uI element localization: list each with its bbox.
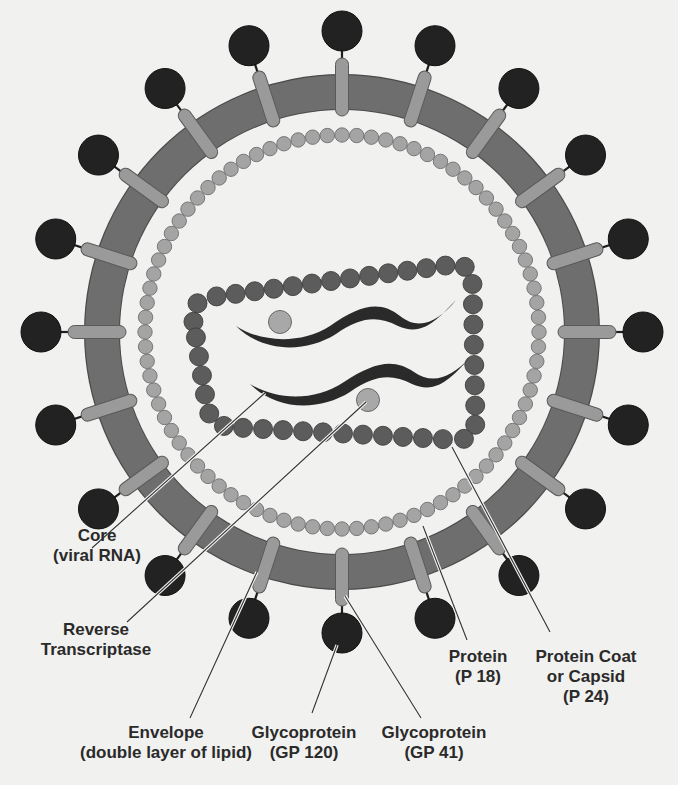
- p18-bead: [291, 517, 305, 531]
- label-core: Core (viral RNA): [52, 526, 142, 566]
- leader-line-stroke: [312, 645, 337, 713]
- p18-bead: [531, 340, 545, 354]
- p24-bead: [274, 421, 293, 440]
- p24-bead: [393, 427, 412, 446]
- p18-bead: [143, 281, 157, 295]
- p18-bead: [350, 128, 364, 142]
- leader-line-stroke: [190, 572, 257, 718]
- p18-bead: [505, 423, 519, 437]
- p18-bead: [527, 369, 541, 383]
- p24-bead: [466, 396, 485, 415]
- p24-bead: [436, 256, 455, 275]
- p18-bead: [138, 325, 152, 339]
- p18-bead: [420, 502, 434, 516]
- p24-bead: [322, 272, 341, 291]
- p24-bead: [417, 259, 436, 278]
- p18-bead: [446, 488, 460, 502]
- p18-bead: [140, 354, 154, 368]
- p24-bead: [398, 261, 417, 280]
- p18-bead: [393, 513, 407, 527]
- p18-bead: [433, 495, 447, 509]
- label-envelope: Envelope (double layer of lipid): [66, 723, 266, 763]
- gp120-head: [36, 219, 76, 259]
- gp120-head: [36, 405, 76, 445]
- p18-bead: [407, 141, 421, 155]
- p24-bead: [234, 418, 253, 437]
- gp120-head: [566, 135, 606, 175]
- p18-bead: [151, 397, 165, 411]
- label-glycoprotein-gp120: Glycoprotein (GP 120): [248, 723, 360, 763]
- p24-bead: [189, 347, 208, 366]
- p18-bead: [320, 128, 334, 142]
- p18-bead: [335, 128, 349, 142]
- lipid-envelope: [84, 74, 600, 590]
- gp120-head: [415, 26, 455, 66]
- p18-bead: [335, 522, 349, 536]
- p18-bead: [224, 488, 238, 502]
- p24-bead: [463, 274, 482, 293]
- p18-bead: [446, 162, 460, 176]
- leader-line-gp41: [345, 596, 421, 718]
- p18-bead: [143, 369, 157, 383]
- p24-bead: [245, 282, 264, 301]
- p24-bead: [192, 366, 211, 385]
- p18-bead: [489, 202, 503, 216]
- p24-bead: [360, 266, 379, 285]
- p24-bead: [413, 429, 432, 448]
- p18-bead: [407, 508, 421, 522]
- leader-line-stroke: [345, 596, 421, 718]
- p18-bead: [277, 137, 291, 151]
- p24-bead: [455, 257, 474, 276]
- p18-bead: [151, 253, 165, 267]
- p18-bead: [236, 154, 250, 168]
- virus-interior: [120, 110, 564, 554]
- p18-bead: [140, 295, 154, 309]
- p18-bead: [263, 141, 277, 155]
- gp120-head: [78, 489, 118, 529]
- p18-bead: [350, 521, 364, 535]
- p24-bead: [433, 430, 452, 449]
- p18-bead: [147, 267, 161, 281]
- gp120-head: [229, 26, 269, 66]
- p18-bead: [420, 147, 434, 161]
- p24-bead: [200, 404, 219, 423]
- p24-bead: [334, 424, 353, 443]
- p18-bead: [379, 517, 393, 531]
- p24-bead: [283, 277, 302, 296]
- gp120-head: [415, 598, 455, 638]
- gp120-head: [145, 68, 185, 108]
- p18-bead: [518, 397, 532, 411]
- label-protein-p18: Protein (P 18): [440, 647, 516, 687]
- p18-bead: [249, 147, 263, 161]
- p24-bead: [186, 328, 205, 347]
- gp120-head: [608, 219, 648, 259]
- p24-bead: [454, 429, 473, 448]
- p24-bead: [314, 423, 333, 442]
- p18-bead: [531, 310, 545, 324]
- p18-bead: [530, 354, 544, 368]
- p18-bead: [277, 513, 291, 527]
- p18-bead: [236, 495, 250, 509]
- p18-bead: [505, 226, 519, 240]
- p24-bead: [465, 376, 484, 395]
- p18-bead: [164, 226, 178, 240]
- p24-bead: [302, 274, 321, 293]
- label-reverse-transcriptase: Reverse Transcriptase: [36, 620, 156, 660]
- p24-bead: [341, 269, 360, 288]
- gp120-head: [78, 135, 118, 175]
- label-glycoprotein-gp41: Glycoprotein (GP 41): [378, 723, 490, 763]
- p18-bead: [498, 214, 512, 228]
- p24-bead: [465, 356, 484, 375]
- p18-bead: [157, 239, 171, 253]
- p24-bead: [373, 426, 392, 445]
- leader-line-envelope: [190, 572, 257, 718]
- virus-diagram: Core (viral RNA) Reverse Transcriptase E…: [0, 0, 678, 785]
- p18-bead: [433, 154, 447, 168]
- leader-line-gp120: [312, 645, 337, 713]
- p24-bead: [188, 294, 207, 313]
- p18-bead: [320, 521, 334, 535]
- p18-bead: [364, 130, 378, 144]
- p18-bead: [527, 281, 541, 295]
- p18-bead: [530, 295, 544, 309]
- p24-bead: [195, 385, 214, 404]
